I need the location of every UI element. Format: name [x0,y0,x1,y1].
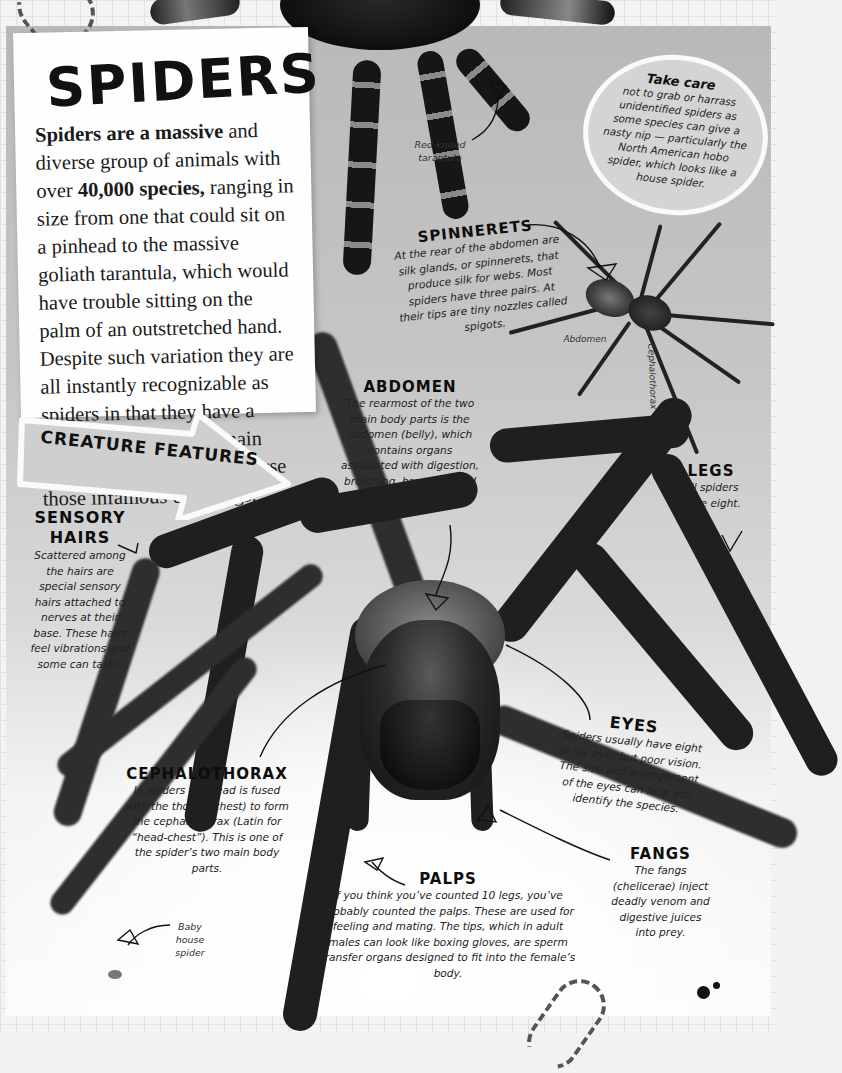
feature-fangs: FANGS The fangs (chelicerae) inject dead… [608,845,713,941]
intro-bold-species: 40,000 species, [78,176,205,201]
take-care-text: not to grab or harrass unidentified spid… [597,82,753,195]
feature-heading: ABDOMEN [340,378,480,396]
caption-abdomen: Abdomen [560,333,610,346]
page-title: SPIDERS [45,45,295,119]
feature-abdomen: ABDOMEN The rearmost of the two main bod… [340,378,480,505]
intro-card: SPIDERS Spiders are a massive and divers… [13,27,316,418]
feature-heading: SENSORY HAIRS [30,508,130,548]
feature-text: At the rear of the abdomen are silk glan… [392,231,571,341]
feature-text: In spiders the head is fused with the th… [122,783,292,876]
feature-heading: LEGS [680,462,742,480]
feature-text: Scattered among the hairs are special se… [30,548,130,672]
feature-sensory-hairs: SENSORY HAIRS Scattered among the hairs … [30,508,130,672]
feature-heading: CEPHALOTHORAX [122,765,292,783]
feature-text: If you think you’ve counted 10 legs, you… [318,888,578,981]
feature-heading: PALPS [318,870,578,888]
feature-spinnerets: SPINNERETS At the rear of the abdomen ar… [390,213,571,341]
caption-baby-spider: Baby house spider [170,920,210,959]
feature-heading: FANGS [608,845,713,863]
feature-cephalothorax: CEPHALOTHORAX In spiders the head is fus… [122,765,292,876]
feature-text: The rearmost of the two main body parts … [340,396,480,505]
feature-text: The fangs (chelicerae) inject deadly ven… [608,863,713,941]
feature-text: All spiders have eight. [680,480,742,511]
intro-bold-lead: Spiders are a massive [35,120,224,146]
baby-spider-photo [108,970,122,979]
caption-tarantula: Red-kneed tarantula [405,138,475,164]
feature-palps: PALPS If you think you’ve counted 10 leg… [318,870,578,981]
caption-cephalothorax: Cephalothorax [644,336,660,416]
feature-legs: LEGS All spiders have eight. [680,462,742,511]
feature-text: Spiders usually have eight or six eyes b… [550,726,707,819]
feature-eyes: EYES Spiders usually have eight or six e… [550,707,709,819]
